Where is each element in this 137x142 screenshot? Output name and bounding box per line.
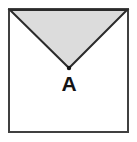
geometry-figure-svg: A <box>0 0 137 142</box>
apex-vertex-dot <box>67 66 71 70</box>
geometry-figure-container: A <box>0 0 137 142</box>
vertex-label-a: A <box>61 72 76 95</box>
